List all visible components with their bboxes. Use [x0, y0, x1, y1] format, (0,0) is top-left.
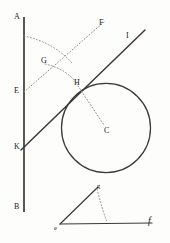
solid-line-group	[21, 17, 152, 224]
label-point-f: f	[148, 216, 151, 226]
label-point-g: g	[97, 183, 100, 190]
label-point-C: C	[104, 127, 109, 135]
label-point-I: I	[126, 32, 129, 40]
dotted-HC-radius	[78, 86, 104, 125]
label-point-e: e	[54, 225, 57, 232]
label-point-K: K	[14, 143, 20, 151]
geometry-figure: A F I G E H C K B g e f	[0, 0, 170, 243]
arc-g-to-base	[97, 189, 107, 222]
line-ef-base	[60, 223, 152, 224]
line-eg-slant	[60, 187, 98, 224]
label-point-B: B	[14, 203, 19, 211]
label-point-F: F	[99, 19, 103, 27]
label-point-G: G	[41, 57, 47, 65]
label-point-E: E	[14, 87, 19, 95]
arc-G-to-H	[45, 64, 77, 84]
label-point-A: A	[14, 13, 20, 21]
arc-A-to-H	[24, 36, 72, 63]
figure-canvas	[0, 0, 170, 243]
label-point-H: H	[74, 79, 80, 87]
dotted-construction-group	[24, 22, 107, 222]
